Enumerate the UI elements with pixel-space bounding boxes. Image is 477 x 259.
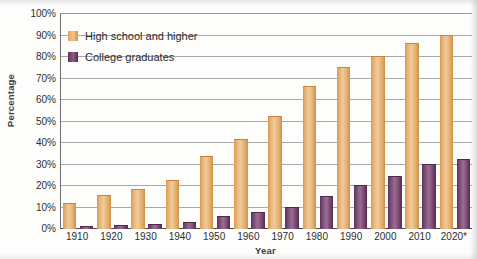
bar-college-2020* [457, 159, 471, 228]
legend-label: High school and higher [85, 30, 198, 42]
bar-college-1960 [251, 212, 265, 228]
x-tick-label: 2000 [374, 231, 396, 242]
y-tick-label: 20% [18, 180, 56, 191]
bar-group [234, 13, 265, 228]
bar-high-school-1940 [166, 180, 180, 228]
bar-group [440, 13, 471, 228]
y-tick-label: 30% [18, 158, 56, 169]
bar-high-school-1960 [234, 139, 248, 228]
y-tick-label: 10% [18, 201, 56, 212]
bar-face [217, 216, 231, 229]
legend-label: College graduates [85, 51, 174, 63]
bar-face [251, 212, 265, 229]
bar-college-1970 [285, 207, 299, 229]
x-axis-title: Year [60, 245, 471, 256]
bar-college-1980 [320, 196, 334, 228]
x-tick-label: 1910 [66, 231, 88, 242]
bar-high-school-2010 [405, 43, 419, 228]
bar-face [422, 164, 436, 230]
bar-chart: Percentage 0%10%20%30%40%50%60%70%80%90%… [0, 0, 477, 259]
bar-high-school-1910 [63, 203, 77, 228]
bar-face [371, 56, 385, 229]
bar-high-school-2000 [371, 56, 385, 228]
bar-face [166, 180, 180, 229]
bar-college-1920 [114, 225, 128, 228]
y-tick-label: 0% [18, 223, 56, 234]
bar-face [405, 43, 419, 229]
x-tick-label: 2010 [409, 231, 431, 242]
bar-face [337, 67, 351, 229]
bar-face [80, 226, 94, 229]
bar-high-school-1950 [200, 156, 214, 228]
bar-high-school-1930 [131, 189, 145, 228]
bar-college-2000 [388, 176, 402, 228]
bar-face [200, 156, 214, 229]
x-tick-label: 1940 [169, 231, 191, 242]
bar-face [457, 159, 471, 229]
legend-swatch-icon [68, 31, 78, 41]
y-tick-label: 90% [18, 29, 56, 40]
bar-face [148, 224, 162, 229]
y-tick-label: 40% [18, 137, 56, 148]
y-tick-label: 70% [18, 72, 56, 83]
legend-item: High school and higher [68, 29, 238, 43]
bar-face [268, 116, 282, 229]
legend-item: College graduates [68, 50, 238, 64]
bar-college-1940 [183, 222, 197, 228]
x-tick-label: 1970 [272, 231, 294, 242]
x-tick-label: 2020* [441, 231, 467, 242]
bar-high-school-1990 [337, 67, 351, 228]
x-tick-label: 1920 [100, 231, 122, 242]
bar-college-1910 [80, 226, 94, 228]
bar-face [354, 185, 368, 229]
x-tick-label: 1990 [340, 231, 362, 242]
bar-college-1990 [354, 185, 368, 228]
bar-high-school-1980 [303, 86, 317, 228]
bar-face [285, 207, 299, 230]
legend-swatch-icon [68, 52, 78, 62]
bar-face [183, 222, 197, 229]
bar-face [234, 139, 248, 229]
x-tick-label: 1950 [203, 231, 225, 242]
bar-high-school-2020* [440, 35, 454, 229]
bar-face [131, 189, 145, 229]
scan-edge-top [0, 0, 477, 6]
bar-face [440, 35, 454, 230]
x-tick-label: 1960 [237, 231, 259, 242]
bar-face [63, 203, 77, 229]
y-tick-label: 60% [18, 94, 56, 105]
bar-face [320, 196, 334, 229]
bar-face [97, 195, 111, 229]
bar-high-school-1970 [268, 116, 282, 228]
y-tick-label: 80% [18, 51, 56, 62]
chart-legend: High school and higherCollege graduates [68, 29, 238, 71]
y-axis-title: Percentage [5, 61, 16, 141]
bar-college-2010 [422, 164, 436, 229]
y-tick-label: 50% [18, 115, 56, 126]
bar-college-1930 [148, 224, 162, 228]
bar-group [268, 13, 299, 228]
y-axis-tick-labels: 0%10%20%30%40%50%60%70%80%90%100% [18, 0, 56, 259]
bar-face [114, 225, 128, 229]
bar-group [337, 13, 368, 228]
bar-face [388, 176, 402, 229]
y-tick-label: 100% [18, 8, 56, 19]
x-tick-label: 1930 [135, 231, 157, 242]
x-tick-label: 1980 [306, 231, 328, 242]
bar-high-school-1920 [97, 195, 111, 228]
bar-group [405, 13, 436, 228]
bar-group [303, 13, 334, 228]
bar-group [371, 13, 402, 228]
bar-college-1950 [217, 216, 231, 228]
bar-face [303, 86, 317, 229]
